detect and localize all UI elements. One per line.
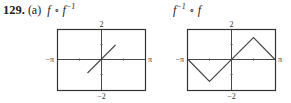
- svg-text:−π: −π: [175, 55, 184, 64]
- svg-text:−2: −2: [97, 92, 106, 101]
- svg-text:−2: −2: [227, 92, 236, 101]
- svg-text:−π: −π: [45, 55, 54, 64]
- graph-finverse-of-f: 2 −2 −π π: [175, 20, 282, 101]
- svg-text:2: 2: [230, 20, 234, 29]
- graph-f-of-finverse: 2 −2 −π π: [45, 20, 152, 101]
- svg-text:π: π: [278, 55, 282, 64]
- graphs: 2 −2 −π π 2 −2 −π π: [0, 0, 291, 103]
- svg-text:π: π: [148, 55, 152, 64]
- svg-text:2: 2: [100, 20, 104, 29]
